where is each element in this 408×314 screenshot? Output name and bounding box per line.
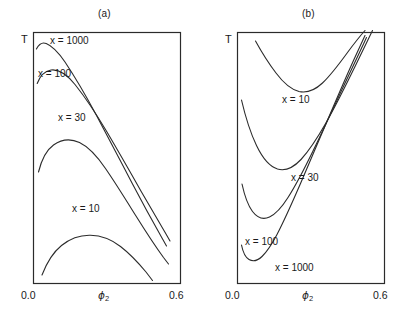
panel-b-xtick-min: 0.0: [225, 289, 240, 301]
panel-a-curve-x10: [42, 235, 153, 280]
plot-curves-svg: [0, 0, 408, 314]
panel-a-label-x10: x = 10: [72, 203, 100, 214]
figure-container: (a) T x = 1000 x = 100 x = 30 x = 10 0.0…: [0, 0, 408, 314]
panel-a-x-axis-label: ϕ2: [98, 289, 109, 303]
panel-b-xtick-max: 0.6: [373, 289, 388, 301]
panel-b-y-axis-label: T: [225, 33, 232, 45]
panel-a-phi-subscript: 2: [105, 294, 109, 303]
panel-b-caption: (b): [302, 8, 315, 19]
panel-b-label-x1000: x = 1000: [275, 262, 314, 273]
panel-a-curve-x30: [39, 140, 169, 264]
panel-b-phi-symbol: ϕ: [302, 289, 309, 301]
panel-a-label-x100: x = 100: [38, 68, 71, 79]
panel-a-xtick-max: 0.6: [169, 289, 184, 301]
panel-b-label-x10: x = 10: [282, 94, 310, 105]
panel-a-curve-x100: [37, 70, 170, 241]
panel-a-label-x1000: x = 1000: [50, 35, 89, 46]
panel-b-label-x100: x = 100: [245, 236, 278, 247]
panel-b-curve-x100: [242, 38, 367, 219]
panel-a-label-x30: x = 30: [58, 112, 86, 123]
panel-b-x-axis-label: ϕ2: [302, 289, 313, 303]
panel-b-curve-x1000: [242, 36, 366, 261]
panel-b-curve-x10: [256, 31, 366, 92]
panel-a-xtick-min: 0.0: [21, 289, 36, 301]
panel-b-phi-subscript: 2: [309, 294, 313, 303]
panel-a-phi-symbol: ϕ: [98, 289, 105, 301]
panel-b-label-x30: x = 30: [291, 172, 319, 183]
